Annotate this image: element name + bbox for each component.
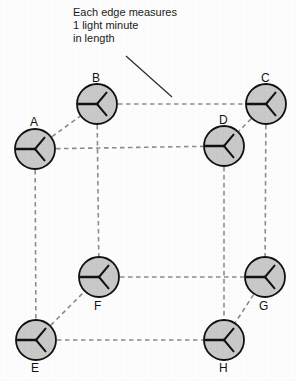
clock-hub-icon (223, 145, 226, 148)
clock-hub-icon (223, 339, 226, 342)
edge-a-e (35, 170, 36, 319)
edge-c-d (239, 119, 251, 131)
node-label-b: B (92, 72, 100, 84)
node-label-c: C (261, 72, 270, 84)
clock-node-e[interactable] (16, 320, 56, 360)
node-label-d: D (219, 114, 228, 126)
clock-cube-diagram: Each edge measures 1 light minute in len… (0, 0, 296, 381)
edge-b-f (97, 125, 99, 256)
clock-hub-icon (98, 276, 101, 279)
edge-e-f (51, 292, 84, 325)
annotation-text: Each edge measures 1 light minute in len… (73, 6, 177, 46)
edge-a-b (52, 116, 80, 136)
annotation-line-1: Each edge measures (73, 6, 177, 19)
annotation-leader-line (126, 56, 172, 97)
clock-node-h[interactable] (204, 320, 244, 360)
leader-line (126, 56, 172, 97)
clock-node-g[interactable] (245, 257, 285, 297)
clock-hub-icon (96, 103, 99, 106)
clock-node-d[interactable] (204, 126, 244, 166)
node-label-a: A (30, 116, 38, 128)
edge-a-d (56, 146, 203, 148)
diagram-canvas (0, 0, 296, 381)
annotation-line-2: 1 light minute (73, 19, 177, 32)
clock-hub-icon (34, 148, 37, 151)
node-label-h: H (219, 362, 228, 374)
edge-c-g (265, 125, 266, 256)
clock-node-b[interactable] (77, 84, 117, 124)
clock-hub-icon (35, 339, 38, 342)
annotation-line-3: in length (73, 32, 177, 45)
clock-hub-icon (264, 276, 267, 279)
node-label-e: E (31, 362, 39, 374)
clock-node-c[interactable] (246, 84, 286, 124)
clock-hub-icon (265, 103, 268, 106)
node-label-g: G (259, 300, 268, 312)
clock-node-a[interactable] (15, 129, 55, 169)
clock-node-f[interactable] (79, 257, 119, 297)
edge-g-h (235, 295, 253, 323)
node-label-f: F (94, 300, 101, 312)
